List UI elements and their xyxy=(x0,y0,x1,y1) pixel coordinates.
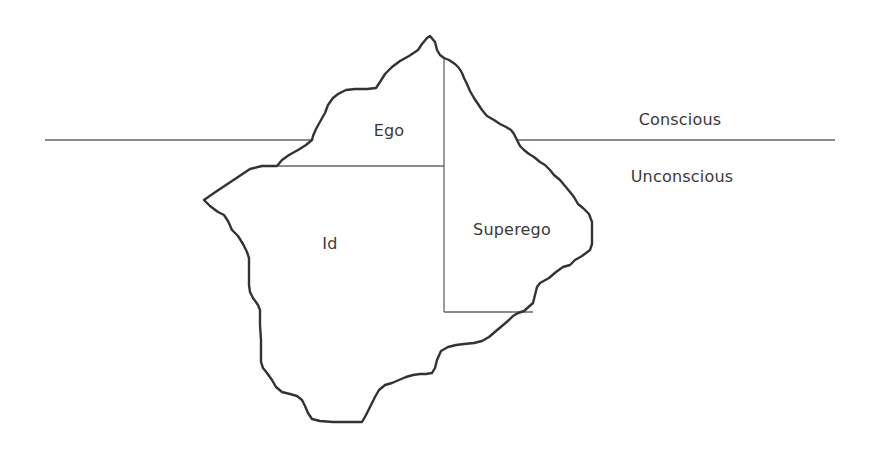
diagram-canvas xyxy=(0,0,877,459)
ego-label: Ego xyxy=(374,121,405,140)
superego-label: Superego xyxy=(473,220,551,239)
unconscious-label: Unconscious xyxy=(631,167,734,186)
conscious-label: Conscious xyxy=(639,110,722,129)
id-label: Id xyxy=(322,234,337,253)
